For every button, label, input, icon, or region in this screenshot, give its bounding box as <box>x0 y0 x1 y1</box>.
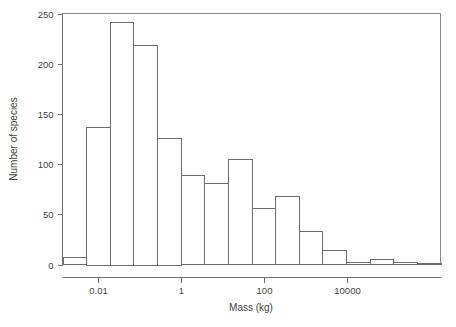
histogram-bar <box>134 46 158 266</box>
histogram-bar <box>276 197 300 265</box>
histogram-bar <box>394 263 418 265</box>
y-tick-label: 250 <box>38 9 54 20</box>
y-tick-label: 200 <box>38 59 54 70</box>
histogram-figure: 050100150200250 0.01110010000 Number of … <box>0 0 456 327</box>
y-tick-label: 50 <box>43 209 54 220</box>
histogram-bar <box>418 264 442 265</box>
y-tick-label: 100 <box>38 159 54 170</box>
histogram-bar <box>182 176 205 265</box>
histogram-bar <box>323 251 347 265</box>
chart-canvas: 050100150200250 0.01110010000 Number of … <box>0 0 456 327</box>
histogram-bar <box>111 23 134 266</box>
x-axis-title: Mass (kg) <box>229 302 273 313</box>
x-tick-label: 100 <box>257 285 273 296</box>
y-axis-title: Number of species <box>8 97 19 180</box>
y-tick-label: 0 <box>48 260 53 271</box>
bars-group <box>64 23 442 266</box>
y-axis: 050100150200250 <box>38 9 63 271</box>
histogram-bar <box>371 260 394 265</box>
y-tick-label: 150 <box>38 109 54 120</box>
histogram-bar <box>64 258 87 265</box>
histogram-bar <box>253 209 276 265</box>
histogram-bar <box>300 232 323 265</box>
x-tick-label: 1 <box>179 285 184 296</box>
histogram-bar <box>347 263 371 265</box>
x-tick-label: 10000 <box>334 285 360 296</box>
histogram-bar <box>87 128 111 266</box>
histogram-bar <box>229 160 253 265</box>
x-axis: 0.01110010000 <box>63 278 441 297</box>
x-tick-label: 0.01 <box>89 285 108 296</box>
histogram-bar <box>158 139 182 266</box>
histogram-bar <box>205 184 229 265</box>
